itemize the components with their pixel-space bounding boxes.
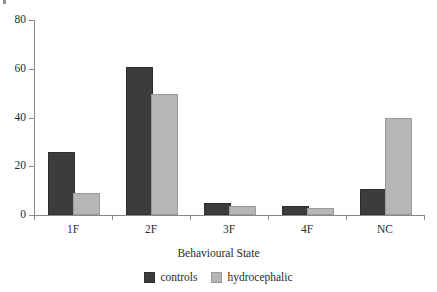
bar-4f-controls: [282, 206, 309, 215]
legend-entry-controls: controls: [144, 272, 197, 284]
bar-3f-controls: [204, 203, 231, 215]
x-axis-line: [34, 215, 424, 216]
bar-2f-controls: [126, 67, 153, 215]
y-tick-mark: [29, 20, 34, 21]
cropped-glyph-artifact: [3, 0, 6, 4]
y-tick-label: 80: [15, 14, 27, 26]
y-tick-label: 60: [15, 63, 27, 75]
x-category-label-2f: 2F: [145, 224, 157, 236]
x-tick-mark: [34, 215, 35, 220]
bar-4f-hydrocephalic: [307, 208, 334, 215]
legend-entry-hydrocephalic: hydrocephalic: [211, 272, 292, 284]
x-axis-title: Behavioural State: [0, 248, 437, 260]
y-tick-label: 40: [15, 112, 27, 124]
legend-swatch-controls: [144, 272, 155, 283]
x-category-label-nc: NC: [377, 224, 393, 236]
x-tick-mark: [424, 215, 425, 220]
x-tick-mark: [112, 215, 113, 220]
bar-1f-hydrocephalic: [73, 193, 100, 215]
chart-legend: controlshydrocephalic: [0, 272, 437, 284]
y-tick-mark: [29, 118, 34, 119]
x-tick-mark: [346, 215, 347, 220]
bar-chart-figure: 020406080 1F2F3F4FNC Behavioural State c…: [0, 0, 437, 292]
bar-2f-hydrocephalic: [151, 94, 178, 215]
legend-label-hydrocephalic: hydrocephalic: [227, 272, 292, 284]
legend-swatch-hydrocephalic: [211, 272, 222, 283]
bar-nc-controls: [360, 189, 387, 215]
plot-area: 020406080: [34, 20, 424, 215]
bar-nc-hydrocephalic: [385, 118, 412, 215]
y-tick-label: 0: [20, 209, 26, 221]
bar-1f-controls: [48, 152, 75, 215]
x-category-label-1f: 1F: [67, 224, 79, 236]
x-tick-mark: [190, 215, 191, 220]
x-category-label-4f: 4F: [301, 224, 313, 236]
y-tick-label: 20: [15, 161, 27, 173]
y-axis-line: [34, 20, 35, 216]
legend-label-controls: controls: [160, 272, 197, 284]
y-tick-mark: [29, 166, 34, 167]
x-tick-mark: [268, 215, 269, 220]
y-tick-mark: [29, 69, 34, 70]
x-category-label-3f: 3F: [223, 224, 235, 236]
bar-3f-hydrocephalic: [229, 206, 256, 215]
